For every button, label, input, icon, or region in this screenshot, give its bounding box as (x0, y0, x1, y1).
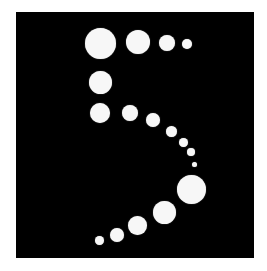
numeral-label: 5 (16, 12, 17, 13)
dot-2 (126, 30, 150, 54)
dot-13 (177, 175, 206, 204)
dot-12 (192, 162, 197, 167)
dot-1 (85, 28, 116, 59)
dot-17 (95, 236, 104, 245)
dot-5 (89, 71, 112, 94)
dot-6 (90, 103, 110, 123)
dot-3 (159, 35, 175, 51)
dot-9 (166, 126, 177, 137)
dot-11 (187, 148, 195, 156)
dot-16 (110, 228, 124, 242)
dot-15 (128, 216, 147, 235)
dot-14 (153, 201, 176, 224)
dot-8 (146, 113, 160, 127)
dot-7 (122, 105, 138, 121)
dot-10 (179, 138, 188, 147)
dot-4 (182, 39, 192, 49)
